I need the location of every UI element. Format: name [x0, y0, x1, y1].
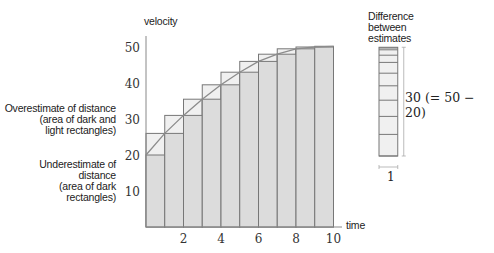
- underestimate-rect: [240, 72, 259, 227]
- y-axis-label: velocity: [144, 16, 177, 27]
- underestimate-rect: [296, 49, 315, 227]
- y-tick-label: 30: [125, 113, 140, 127]
- difference-title-line-3: estimates: [368, 33, 414, 44]
- underestimate-rect: [315, 47, 334, 227]
- underestimate-line-1: Underestimate of distance: [0, 159, 116, 181]
- y-tick-label: 40: [125, 77, 140, 91]
- underestimate-rect: [259, 61, 278, 227]
- underestimate-rect: [165, 133, 184, 227]
- y-tick-label: 10: [125, 185, 140, 199]
- x-tick-label: 2: [180, 232, 188, 246]
- x-tick-label: 4: [217, 232, 225, 246]
- y-tick-label: 20: [125, 149, 140, 163]
- difference-height-label: 30 (= 50 − 20): [405, 90, 494, 120]
- x-tick-label: 6: [255, 232, 263, 246]
- difference-width-label: 1: [387, 170, 395, 184]
- difference-title: Difference between estimates: [368, 11, 414, 44]
- underestimate-annotation: Underestimate of distance (area of dark …: [0, 159, 116, 203]
- underestimate-line-3: rectangles): [0, 192, 116, 203]
- overestimate-line-3: light rectangles): [0, 125, 116, 136]
- x-axis-label: time: [346, 220, 365, 231]
- x-tick-label: 10: [326, 232, 341, 246]
- difference-stack: [379, 47, 398, 156]
- underestimate-rect: [221, 85, 240, 227]
- underestimate-rect: [202, 99, 221, 227]
- overestimate-annotation: Overestimate of distance (area of dark a…: [0, 103, 116, 136]
- y-tick-label: 50: [125, 41, 140, 55]
- underestimate-rect: [277, 54, 296, 227]
- underestimate-rect: [146, 155, 165, 227]
- underestimate-rect: [184, 115, 203, 227]
- x-tick-label: 8: [292, 232, 300, 246]
